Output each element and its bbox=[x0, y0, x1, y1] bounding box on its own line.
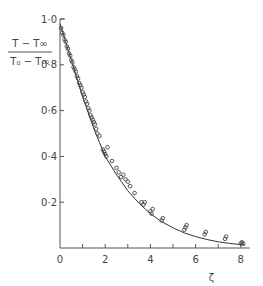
x-tick-label: 0 bbox=[57, 254, 63, 265]
y-tick-label: 0·4 bbox=[41, 151, 57, 162]
data-point-circle bbox=[115, 166, 119, 170]
data-points bbox=[59, 26, 245, 245]
x-tick-label: 6 bbox=[192, 254, 198, 265]
chart-canvas: 024680·20·40·60·81·0ζT − T∞T₀ − T∞ bbox=[0, 0, 263, 286]
axes bbox=[60, 19, 250, 248]
x-tick-label: 4 bbox=[147, 254, 153, 265]
data-point-circle bbox=[98, 134, 102, 138]
y-tick-label: 1·0 bbox=[41, 14, 57, 25]
data-point-circle bbox=[94, 127, 98, 131]
data-point-circle bbox=[121, 173, 125, 177]
data-point-circle bbox=[151, 207, 155, 211]
y-axis-label-numerator: T − T∞ bbox=[11, 38, 47, 49]
x-tick-label: 8 bbox=[238, 254, 244, 265]
data-point-circle bbox=[106, 145, 110, 149]
data-point-circle bbox=[117, 171, 121, 175]
y-tick-label: 0·6 bbox=[41, 105, 57, 116]
data-point-circle bbox=[133, 191, 137, 195]
data-point-circle bbox=[110, 159, 114, 163]
data-point-circle bbox=[128, 184, 132, 188]
y-axis-label-denominator: T₀ − T∞ bbox=[9, 56, 49, 67]
x-axis-label: ζ bbox=[209, 272, 214, 283]
data-point-circle bbox=[126, 180, 130, 184]
y-tick-label: 0·2 bbox=[41, 197, 57, 208]
x-tick-label: 2 bbox=[102, 254, 108, 265]
axis-labels: 024680·20·40·60·81·0ζT − T∞T₀ − T∞ bbox=[8, 14, 244, 284]
